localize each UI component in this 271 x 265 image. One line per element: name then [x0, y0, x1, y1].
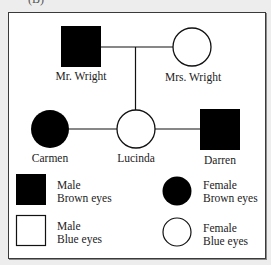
carmen-female-brown-symbol — [31, 110, 69, 148]
mr-wright-male-brown-symbol — [61, 26, 101, 67]
legend-line1: Male — [57, 220, 102, 233]
legend-line2: Brown eyes — [57, 192, 112, 205]
legend-female-brown-icon — [163, 177, 192, 206]
label-carmen: Carmen — [32, 153, 68, 165]
label-lucinda: Lucinda — [117, 153, 155, 165]
legend-line2: Brown eyes — [203, 192, 258, 205]
label-mr-wright: Mr. Wright — [55, 71, 106, 83]
legend-line1: Female — [203, 179, 258, 192]
legend-line2: Blue eyes — [57, 233, 102, 246]
label-darren: Darren — [204, 155, 236, 167]
lucinda-female-blue-symbol — [117, 110, 155, 148]
legend-item-female-brown: Female Brown eyes — [203, 179, 258, 205]
legend-item-female-blue: Female Blue eyes — [203, 222, 248, 248]
legend-female-blue-icon — [163, 218, 191, 246]
legend-item-male-blue: Male Blue eyes — [57, 220, 102, 246]
mrs-wright-female-blue-symbol — [173, 28, 211, 66]
legend-line1: Male — [57, 179, 112, 192]
legend-line1: Female — [203, 222, 248, 235]
darren-male-brown-symbol — [200, 109, 240, 150]
legend-line2: Blue eyes — [203, 235, 248, 248]
legend-item-male-brown: Male Brown eyes — [57, 179, 112, 205]
legend-male-brown-icon — [16, 174, 46, 205]
label-mrs-wright: Mrs. Wright — [165, 72, 221, 84]
legend-male-blue-icon — [17, 216, 46, 246]
